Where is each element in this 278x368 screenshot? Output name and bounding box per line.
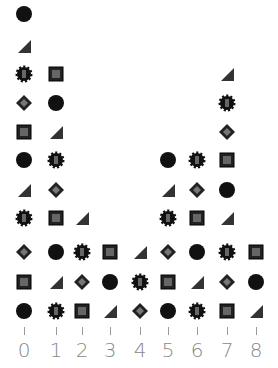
marker-icon: [247, 273, 265, 291]
marker-icon: [47, 209, 65, 227]
marker-icon: [15, 302, 33, 320]
marker-icon: [218, 209, 236, 227]
marker-icon: [47, 181, 65, 199]
marker-icon: [15, 273, 33, 291]
marker-icon: [101, 273, 119, 291]
marker-icon: [47, 94, 65, 112]
x-tick: [24, 327, 25, 335]
x-tick-label: 7: [217, 338, 237, 362]
marker-icon: [73, 273, 91, 291]
marker-icon: [15, 243, 33, 261]
x-tick: [168, 327, 169, 335]
marker-icon: [218, 65, 236, 83]
marker-icon: [218, 243, 236, 261]
x-tick: [110, 327, 111, 335]
marker-icon: [218, 151, 236, 169]
marker-icon: [101, 243, 119, 261]
x-tick: [197, 327, 198, 335]
x-tick-label: 8: [246, 338, 266, 362]
marker-icon: [15, 123, 33, 141]
marker-icon: [47, 123, 65, 141]
marker-icon: [47, 243, 65, 261]
marker-icon: [15, 94, 33, 112]
marker-icon: [73, 243, 91, 261]
marker-icon: [47, 65, 65, 83]
pictograph-chart: 012345678: [0, 0, 278, 368]
marker-icon: [188, 243, 206, 261]
marker-icon: [101, 302, 119, 320]
marker-icon: [218, 181, 236, 199]
marker-icon: [188, 181, 206, 199]
marker-icon: [188, 151, 206, 169]
marker-icon: [15, 65, 33, 83]
x-tick-label: 6: [187, 338, 207, 362]
x-tick: [140, 327, 141, 335]
marker-icon: [159, 181, 177, 199]
x-tick-label: 2: [72, 338, 92, 362]
x-tick: [82, 327, 83, 335]
marker-icon: [188, 302, 206, 320]
marker-icon: [247, 302, 265, 320]
marker-icon: [131, 243, 149, 261]
x-tick: [227, 327, 228, 335]
marker-icon: [131, 302, 149, 320]
marker-icon: [73, 209, 91, 227]
marker-icon: [188, 209, 206, 227]
marker-icon: [73, 302, 91, 320]
x-tick-label: 4: [130, 338, 150, 362]
marker-icon: [159, 151, 177, 169]
marker-icon: [15, 5, 33, 23]
marker-icon: [15, 181, 33, 199]
marker-icon: [131, 273, 149, 291]
marker-icon: [159, 209, 177, 227]
x-tick-label: 3: [100, 338, 120, 362]
marker-icon: [247, 243, 265, 261]
marker-icon: [47, 302, 65, 320]
marker-icon: [15, 151, 33, 169]
marker-icon: [159, 302, 177, 320]
marker-icon: [15, 209, 33, 227]
marker-icon: [218, 94, 236, 112]
x-tick-label: 5: [158, 338, 178, 362]
marker-icon: [218, 302, 236, 320]
marker-icon: [188, 273, 206, 291]
marker-icon: [47, 151, 65, 169]
marker-icon: [159, 273, 177, 291]
marker-icon: [218, 123, 236, 141]
marker-icon: [15, 37, 33, 55]
marker-icon: [47, 273, 65, 291]
marker-icon: [218, 273, 236, 291]
x-tick: [256, 327, 257, 335]
x-tick-label: 1: [46, 338, 66, 362]
x-tick-label: 0: [14, 338, 34, 362]
x-tick: [56, 327, 57, 335]
marker-icon: [159, 243, 177, 261]
